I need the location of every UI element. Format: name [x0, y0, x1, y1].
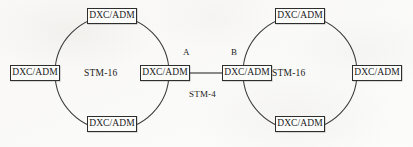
left-ring-capacity-label: STM-16	[84, 69, 117, 79]
sdh-ring-interconnect-diagram: DXC/ADM DXC/ADM DXC/ADM DXC/ADM STM-16 D…	[0, 0, 413, 147]
right-ring-node-left-gateway-b[interactable]: DXC/ADM	[222, 65, 272, 81]
left-ring-node-top[interactable]: DXC/ADM	[87, 8, 137, 24]
gateway-point-b-label: B	[231, 48, 237, 57]
right-ring-node-top[interactable]: DXC/ADM	[275, 8, 325, 24]
left-ring-node-left[interactable]: DXC/ADM	[10, 65, 60, 81]
node-label: DXC/ADM	[277, 119, 323, 129]
left-ring-node-right-gateway-a[interactable]: DXC/ADM	[140, 65, 190, 81]
node-label: DXC/ADM	[89, 119, 135, 129]
node-label: DXC/ADM	[224, 68, 270, 78]
gateway-point-a-label: A	[183, 48, 190, 57]
right-ring-capacity-label: STM-16	[272, 69, 305, 79]
right-ring-node-right[interactable]: DXC/ADM	[352, 65, 402, 81]
stm4-link-label: STM-4	[189, 90, 216, 99]
node-label: DXC/ADM	[89, 11, 135, 21]
node-label: DXC/ADM	[354, 68, 400, 78]
right-ring-node-bottom[interactable]: DXC/ADM	[275, 116, 325, 132]
node-label: DXC/ADM	[142, 68, 188, 78]
node-label: DXC/ADM	[277, 11, 323, 21]
node-label: DXC/ADM	[12, 68, 58, 78]
left-ring-node-bottom[interactable]: DXC/ADM	[87, 116, 137, 132]
